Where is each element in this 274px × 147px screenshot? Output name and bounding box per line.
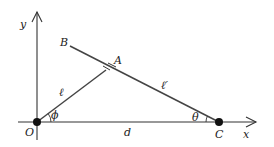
angle-phi-label: ϕ [51, 109, 59, 122]
y-axis-label: y [19, 18, 27, 31]
point-o-label: O [25, 126, 34, 139]
diagram-canvas: y x O C B A ℓ ℓ′ d ϕ θ [0, 0, 274, 147]
segment-l-label: ℓ [59, 86, 64, 99]
angle-theta-arc [206, 116, 207, 122]
segment-d-label: d [124, 126, 131, 139]
rod-oa [37, 70, 106, 122]
geometry-diagram: y x O C B A ℓ ℓ′ d ϕ θ [0, 0, 274, 147]
point-b-label: B [59, 36, 68, 49]
angle-theta-label: θ [192, 111, 199, 124]
origin-dot [33, 118, 41, 126]
x-axis-label: x [243, 128, 250, 141]
point-c-dot [215, 118, 223, 126]
point-a-label: A [113, 54, 122, 67]
segment-lprime-label: ℓ′ [161, 79, 169, 92]
point-c-label: C [215, 128, 224, 141]
